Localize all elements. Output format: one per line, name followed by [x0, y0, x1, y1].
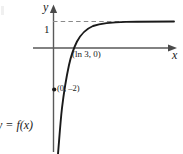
y-intercept-label: (0, –2)	[57, 84, 80, 93]
function-label: y = f(x)	[0, 119, 33, 131]
graph-figure: y x 1 (ln 3, 0) (0, –2) y = f(x)	[0, 0, 183, 154]
y-intercept-dot	[52, 87, 56, 91]
x-intercept-label: (ln 3, 0)	[72, 50, 101, 59]
y-axis	[50, 5, 57, 153]
x-axis	[33, 44, 177, 51]
y-tick-label-one: 1	[44, 24, 50, 35]
x-axis-label: x	[172, 49, 177, 61]
y-axis-label: y	[43, 1, 48, 13]
